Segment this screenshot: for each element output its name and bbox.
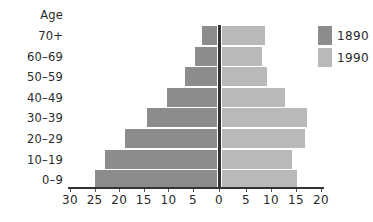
center-divider	[218, 25, 221, 189]
y-tick-label: 50–59	[27, 70, 63, 84]
x-tick-label: 10	[259, 193, 283, 207]
x-tick-mark	[193, 189, 194, 192]
x-tick-mark	[95, 189, 96, 192]
x-tick-mark	[168, 189, 169, 192]
bar-1990	[222, 150, 292, 169]
x-tick-label: 25	[83, 193, 107, 207]
x-tick-label: 30	[58, 193, 82, 207]
x-tick-mark	[296, 189, 297, 192]
y-axis-title: Age	[40, 8, 63, 22]
x-axis-line	[68, 187, 324, 189]
y-tick-label: 10–19	[27, 153, 63, 167]
x-tick-mark	[144, 189, 145, 192]
legend-label-1990: 1990	[337, 51, 369, 65]
legend-swatch-1890	[318, 26, 332, 45]
x-tick-label: 15	[284, 193, 308, 207]
y-tick-label: 70+	[38, 29, 63, 43]
x-tick-label: 5	[181, 193, 205, 207]
x-tick-label: 5	[234, 193, 258, 207]
y-tick-label: 30–39	[27, 111, 63, 125]
x-tick-label: 10	[156, 193, 180, 207]
x-tick-mark	[246, 189, 247, 192]
legend-label-1890: 1890	[337, 29, 369, 43]
x-tick-label: 0	[207, 193, 231, 207]
y-tick-label: 40–49	[27, 91, 63, 105]
x-tick-mark	[70, 189, 71, 192]
bar-1890	[195, 47, 218, 66]
x-tick-label: 15	[132, 193, 156, 207]
bar-1990	[222, 67, 267, 86]
bar-1990	[222, 129, 305, 148]
bar-1890	[167, 88, 217, 107]
bar-1890	[105, 150, 218, 169]
bar-1890	[125, 129, 218, 148]
bar-1990	[222, 88, 285, 107]
y-tick-label: 0–9	[42, 173, 63, 187]
bar-1890	[202, 26, 217, 45]
y-tick-label: 20–29	[27, 132, 63, 146]
x-tick-mark	[219, 189, 220, 192]
x-tick-label: 20	[107, 193, 131, 207]
y-tick-label: 60–69	[27, 50, 63, 64]
population-pyramid-chart: Age 70+60–6950–5940–4930–3920–2910–190–9…	[0, 0, 373, 222]
x-tick-mark	[271, 189, 272, 192]
bar-1890	[185, 67, 218, 86]
legend-swatch-1990	[318, 48, 332, 67]
x-tick-label: 20	[309, 193, 333, 207]
x-tick-mark	[321, 189, 322, 192]
bar-1890	[147, 108, 217, 127]
x-tick-mark	[119, 189, 120, 192]
bar-1990	[222, 47, 262, 66]
bar-1990	[222, 108, 307, 127]
bar-1990	[222, 26, 265, 45]
